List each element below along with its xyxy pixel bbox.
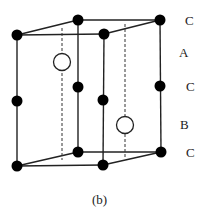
atom [98,160,109,171]
edge [17,34,104,35]
edge [104,20,160,34]
layer-label-a: A [179,46,188,59]
atom [98,95,109,106]
atom [73,82,84,93]
edge [103,152,161,165]
interstitial-atom-b [117,117,134,134]
interstitial-atom-a [54,54,71,71]
atom [12,96,23,107]
layer-label-c-bottom: C [186,146,195,159]
layer-label-b: B [180,118,189,131]
atom [99,29,110,40]
atom [12,161,23,172]
atom [155,15,166,26]
atom [156,147,167,158]
edge [17,20,78,35]
crystal-lattice-diagram [0,0,205,215]
layer-label-c-top: C [185,14,194,27]
edge [17,165,103,166]
edge [17,152,78,166]
atom [73,15,84,26]
atom [12,30,23,41]
atom [155,81,166,92]
layer-label-c-mid: C [186,80,195,93]
figure-caption: (b) [92,193,107,206]
atom [73,147,84,158]
